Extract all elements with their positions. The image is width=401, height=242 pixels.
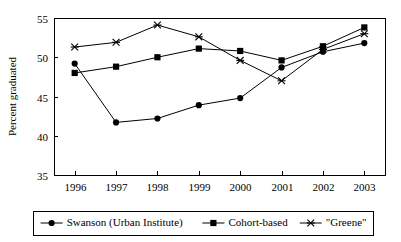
- legend-label: "Greene": [326, 216, 367, 228]
- x-tick-label: 2000: [230, 181, 253, 193]
- x-axis-ticks: 19961997199819992000200120022003: [65, 171, 377, 193]
- data-point-x: [236, 57, 244, 64]
- data-point-square: [278, 57, 284, 63]
- data-point-circle: [237, 95, 243, 101]
- x-tick-label: 1997: [106, 181, 129, 193]
- data-point-circle: [49, 220, 55, 226]
- data-point-square: [361, 24, 367, 30]
- x-tick-label: 1996: [65, 181, 88, 193]
- legend-label: Cohort-based: [228, 216, 288, 228]
- x-tick-label: 2001: [272, 181, 294, 193]
- x-tick-label: 1999: [189, 181, 212, 193]
- data-point-square: [72, 70, 78, 76]
- y-axis-title: Percent graduated: [6, 56, 18, 136]
- data-point-x: [195, 33, 203, 40]
- x-tick-label: 1998: [147, 181, 170, 193]
- series-1: [72, 40, 368, 125]
- data-point-square: [210, 220, 216, 226]
- data-point-square: [113, 64, 119, 70]
- plot-frame: [55, 19, 386, 176]
- data-point-circle: [154, 115, 160, 121]
- line-chart: 3540455055 19961997199819992000200120022…: [0, 0, 401, 242]
- data-point-x: [153, 22, 161, 29]
- data-point-circle: [361, 40, 367, 46]
- y-tick-label: 40: [37, 131, 49, 143]
- legend-label: Swanson (Urban Institute): [67, 216, 183, 229]
- y-tick-label: 55: [37, 13, 49, 25]
- data-point-square: [237, 48, 243, 54]
- x-tick-label: 2002: [313, 181, 335, 193]
- chart-container: 3540455055 19961997199819992000200120022…: [0, 0, 401, 242]
- data-point-x: [71, 44, 79, 51]
- y-tick-label: 35: [37, 170, 49, 182]
- series-layer: [71, 22, 369, 126]
- x-tick-label: 2003: [354, 181, 377, 193]
- data-point-square: [154, 54, 160, 60]
- y-tick-label: 50: [37, 52, 49, 64]
- chart-legend: Swanson (Urban Institute)Cohort-based"Gr…: [34, 212, 374, 236]
- data-point-circle: [196, 102, 202, 108]
- y-axis-title-text: Percent graduated: [6, 56, 18, 136]
- data-point-x: [112, 39, 120, 46]
- data-point-circle: [72, 60, 78, 66]
- data-point-square: [196, 46, 202, 52]
- data-point-x: [360, 30, 368, 37]
- y-tick-label: 45: [37, 92, 49, 104]
- data-point-circle: [113, 119, 119, 125]
- data-point-circle: [278, 64, 284, 70]
- data-point-x: [278, 77, 286, 84]
